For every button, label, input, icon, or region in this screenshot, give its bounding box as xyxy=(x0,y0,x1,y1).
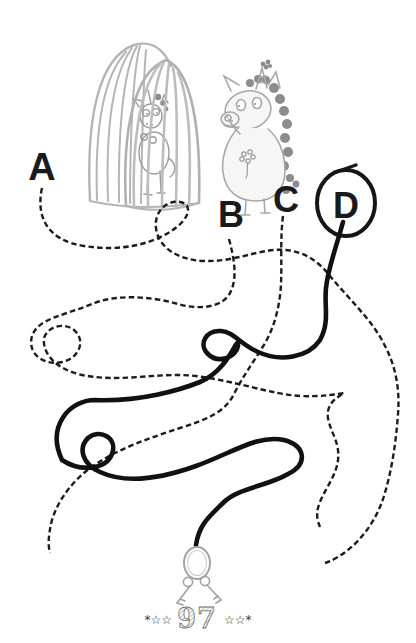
cage-illustration xyxy=(89,44,199,210)
option-label-c: C xyxy=(273,179,299,220)
caged-unicorn-horn xyxy=(148,90,151,103)
key-left xyxy=(177,577,193,605)
page-number-stars-left: *☆☆ xyxy=(144,613,172,627)
page-number: 97 xyxy=(177,603,217,634)
page-number-stars-right: ☆☆* xyxy=(224,613,252,627)
worksheet-page: A B C D *☆☆ 97 ☆☆* xyxy=(0,0,416,643)
option-label-a: A xyxy=(28,146,55,188)
maze-line-d-answer xyxy=(57,222,343,545)
maze-line-b xyxy=(31,239,344,527)
key-right xyxy=(200,576,221,603)
option-label-b: B xyxy=(218,194,244,235)
maze-line-c xyxy=(49,216,283,553)
keys-illustration xyxy=(177,547,221,605)
option-label-d: D xyxy=(333,185,359,226)
maze-illustration: A B C D *☆☆ 97 ☆☆* xyxy=(0,0,416,643)
